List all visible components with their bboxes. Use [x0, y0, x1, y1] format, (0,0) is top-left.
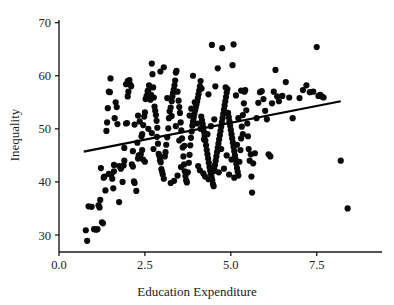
data-point — [239, 124, 245, 130]
data-point — [111, 162, 117, 168]
data-point — [188, 106, 194, 112]
data-point — [243, 107, 249, 113]
data-point — [211, 168, 217, 174]
data-point — [153, 118, 159, 124]
data-point — [150, 146, 156, 152]
data-point — [84, 238, 90, 244]
data-point — [201, 136, 207, 142]
data-point — [165, 125, 171, 131]
data-point — [100, 220, 106, 226]
data-point — [164, 95, 170, 101]
data-point — [161, 176, 167, 182]
data-point — [144, 95, 150, 101]
data-point — [132, 180, 138, 186]
data-point — [240, 131, 246, 137]
y-tick-label: 60 — [39, 69, 52, 83]
data-point — [283, 79, 289, 85]
data-point — [194, 120, 200, 126]
data-point — [241, 100, 247, 106]
data-point — [259, 88, 265, 94]
x-tick-label: 7.5 — [309, 258, 325, 272]
data-point — [149, 71, 155, 77]
data-point — [255, 100, 261, 106]
data-point — [155, 141, 161, 147]
data-point — [133, 188, 139, 194]
x-tick-label: 5.0 — [223, 258, 239, 272]
data-point — [238, 88, 244, 94]
data-point — [246, 146, 252, 152]
data-point — [181, 143, 187, 149]
data-point — [172, 77, 178, 83]
data-point — [226, 171, 232, 177]
data-point — [303, 82, 309, 88]
data-point — [197, 78, 203, 84]
data-point — [116, 199, 122, 205]
data-point — [174, 89, 180, 95]
data-point — [229, 62, 235, 68]
data-point — [125, 89, 131, 95]
data-point — [345, 205, 351, 211]
data-point — [190, 73, 196, 79]
data-point — [272, 67, 278, 73]
data-point — [140, 157, 146, 163]
data-point — [185, 169, 191, 175]
data-point — [104, 119, 110, 125]
data-point — [205, 176, 211, 182]
data-point — [149, 60, 155, 66]
data-point — [150, 84, 156, 90]
data-point — [102, 187, 108, 193]
data-point — [114, 104, 120, 110]
data-point — [94, 226, 100, 232]
data-point — [176, 137, 182, 143]
data-point — [121, 145, 127, 151]
data-point — [231, 175, 237, 181]
data-point — [124, 120, 130, 126]
data-point — [209, 42, 215, 48]
data-point — [230, 41, 236, 47]
x-axis-title: Education Expenditure — [137, 284, 257, 299]
data-point — [212, 83, 218, 89]
data-point — [110, 185, 116, 191]
x-axis-ticklabels: 0.02.55.07.5 — [51, 258, 324, 272]
data-point — [158, 159, 164, 165]
data-point — [186, 160, 192, 166]
data-point — [130, 148, 136, 154]
data-point — [162, 149, 168, 155]
data-point — [267, 153, 273, 159]
chart-canvas: 3040506070 0.02.55.07.5 Education Expend… — [0, 0, 394, 305]
data-point — [314, 44, 320, 50]
data-point — [221, 166, 227, 172]
data-point — [96, 204, 102, 210]
data-point — [137, 118, 143, 124]
data-point — [211, 116, 217, 122]
data-point — [211, 183, 217, 189]
data-point — [180, 153, 186, 159]
data-point — [151, 94, 157, 100]
data-point — [139, 131, 145, 137]
data-point — [187, 142, 193, 148]
y-tick-label: 70 — [39, 16, 52, 30]
data-point — [244, 120, 250, 126]
x-tick-label: 0.0 — [51, 258, 67, 272]
data-point — [279, 93, 285, 99]
data-point — [224, 152, 230, 158]
data-point — [188, 135, 194, 141]
data-point — [114, 121, 120, 127]
data-point — [215, 65, 221, 71]
data-point — [205, 91, 211, 97]
data-point — [139, 147, 145, 153]
data-point — [249, 189, 255, 195]
data-point — [228, 157, 234, 163]
data-point — [186, 152, 192, 158]
data-point — [234, 142, 240, 148]
data-point — [98, 165, 104, 171]
scatter-plot-figure: 3040506070 0.02.55.07.5 Education Expend… — [0, 0, 394, 305]
data-point — [177, 110, 183, 116]
data-point — [149, 130, 155, 136]
data-point — [237, 147, 243, 153]
data-point — [168, 180, 174, 186]
data-point — [132, 121, 138, 127]
data-point — [142, 109, 148, 115]
data-point — [116, 163, 122, 169]
data-point — [107, 89, 113, 95]
